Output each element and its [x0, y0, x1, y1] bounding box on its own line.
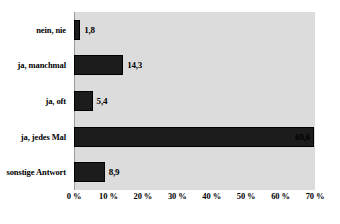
- x-axis-tick-label: 0 %: [67, 191, 82, 201]
- bar: [74, 55, 123, 75]
- bar-value-label: 1,8: [84, 25, 95, 35]
- bar-row: 5,4: [74, 83, 315, 119]
- category-label: ja, manchmal: [0, 48, 70, 84]
- x-axis-tick-label: 30 %: [168, 191, 187, 201]
- bar-row: 8,9: [74, 154, 315, 190]
- bar: [74, 91, 93, 111]
- bar-row: 69,6: [74, 119, 315, 155]
- bar: [74, 127, 314, 147]
- x-axis-tick-label: 20 %: [133, 191, 152, 201]
- bar: [74, 162, 105, 182]
- x-axis-tick-label: 10 %: [99, 191, 118, 201]
- x-axis-tick-label: 40 %: [202, 191, 221, 201]
- bar-row: 1,8: [74, 12, 315, 48]
- x-axis: 0 %10 %20 %30 %40 %50 %60 %70 %: [74, 191, 315, 207]
- category-label: sonstige Antwort: [0, 154, 70, 190]
- bar-value-label: 69,6: [295, 132, 310, 142]
- category-label: ja, jedes Mal: [0, 119, 70, 155]
- bar-row: 14,3: [74, 48, 315, 84]
- category-label: nein, nie: [0, 12, 70, 48]
- x-axis-tick-label: 70 %: [306, 191, 325, 201]
- category-axis-labels: nein, nie ja, manchmal ja, oft ja, jedes…: [0, 12, 70, 190]
- bar-value-label: 14,3: [127, 60, 142, 70]
- bar-chart: nein, nie ja, manchmal ja, oft ja, jedes…: [0, 0, 340, 224]
- bar-value-label: 5,4: [97, 96, 108, 106]
- bar: [74, 20, 80, 40]
- category-label: ja, oft: [0, 83, 70, 119]
- bar-value-label: 8,9: [109, 167, 120, 177]
- x-axis-tick-label: 60 %: [271, 191, 290, 201]
- bar-series: 1,8 14,3 5,4 69,6 8,9: [74, 12, 315, 190]
- x-axis-tick-label: 50 %: [237, 191, 256, 201]
